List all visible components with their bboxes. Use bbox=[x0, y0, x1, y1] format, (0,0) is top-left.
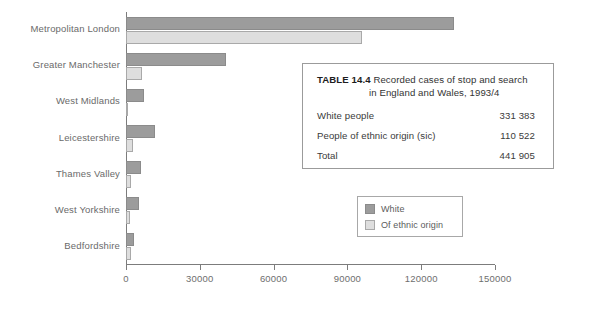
legend-label: Of ethnic origin bbox=[381, 220, 443, 230]
x-axis-tick bbox=[200, 265, 201, 270]
table-row-label: People of ethnic origin (sic) bbox=[317, 126, 436, 146]
table-row-value: 441 905 bbox=[500, 146, 539, 166]
legend-item-ethnic-origin: Of ethnic origin bbox=[365, 218, 455, 232]
bar-ethnic-series bbox=[126, 175, 131, 188]
table-row: People of ethnic origin (sic) 110 522 bbox=[317, 126, 539, 146]
x-axis-tick-label: 60000 bbox=[260, 273, 287, 284]
category-axis-labels: Metropolitan London Greater Manchester W… bbox=[0, 12, 120, 265]
x-axis-tick bbox=[126, 265, 127, 270]
table-14-4: TABLE 14.4 Recorded cases of stop and se… bbox=[302, 63, 554, 169]
x-axis-tick-label: 30000 bbox=[186, 273, 213, 284]
table-row-label: Total bbox=[317, 146, 338, 166]
x-axis-tick-label: 120000 bbox=[405, 273, 438, 284]
table-row-value: 331 383 bbox=[500, 106, 539, 126]
table-row: White people 331 383 bbox=[317, 106, 539, 126]
bar-white-series bbox=[126, 125, 155, 138]
table-row-label: White people bbox=[317, 106, 374, 126]
bar-ethnic-series bbox=[126, 247, 131, 260]
table-title-line-1: TABLE 14.4 Recorded cases of stop and se… bbox=[317, 73, 539, 86]
bar-white-series bbox=[126, 161, 141, 174]
x-axis-tick-label: 150000 bbox=[479, 273, 512, 284]
legend-label: White bbox=[381, 204, 405, 214]
legend-swatch-icon bbox=[365, 220, 375, 230]
table-number: TABLE 14.4 bbox=[317, 74, 371, 85]
bar-white-series bbox=[126, 17, 454, 30]
table-rows: White people 331 383 People of ethnic or… bbox=[317, 106, 539, 166]
category-label: Leicestershire bbox=[2, 132, 120, 143]
bar-white-series bbox=[126, 233, 134, 246]
chart-legend: White Of ethnic origin bbox=[357, 196, 463, 237]
bar-ethnic-series bbox=[126, 31, 362, 44]
category-label: West Yorkshire bbox=[2, 204, 120, 215]
table-title-part-1: Recorded cases of stop and search bbox=[373, 74, 527, 85]
x-axis-tick bbox=[495, 265, 496, 270]
bar-ethnic-series bbox=[126, 103, 128, 116]
legend-item-white: White bbox=[365, 202, 455, 216]
category-label: Thames Valley bbox=[2, 168, 120, 179]
x-axis-tick bbox=[347, 265, 348, 270]
bar-ethnic-series bbox=[126, 211, 130, 224]
x-axis-line bbox=[126, 264, 495, 265]
x-axis-tick-label: 0 bbox=[123, 273, 128, 284]
table-row: Total 441 905 bbox=[317, 146, 539, 166]
legend-swatch-icon bbox=[365, 204, 375, 214]
x-axis-tick bbox=[421, 265, 422, 270]
bar-white-series bbox=[126, 197, 139, 210]
table-title-line-2: in England and Wales, 1993/4 bbox=[317, 86, 539, 99]
bar-white-series bbox=[126, 53, 226, 66]
x-axis-tick bbox=[274, 265, 275, 270]
category-label: Greater Manchester bbox=[2, 59, 120, 70]
chart-figure: Metropolitan London Greater Manchester W… bbox=[0, 0, 589, 309]
table-row-value: 110 522 bbox=[500, 126, 539, 146]
category-label: Metropolitan London bbox=[2, 23, 120, 34]
bar-ethnic-series bbox=[126, 139, 133, 152]
x-axis-tick-label: 90000 bbox=[334, 273, 361, 284]
category-label: Bedfordshire bbox=[2, 240, 120, 251]
bar-ethnic-series bbox=[126, 67, 142, 80]
category-label: West Midlands bbox=[2, 95, 120, 106]
bar-white-series bbox=[126, 89, 144, 102]
